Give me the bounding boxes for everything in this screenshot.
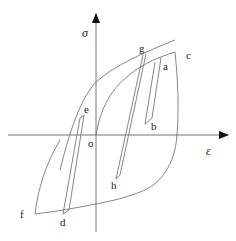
main-loop-right bbox=[35, 52, 178, 214]
loop-a-b-1 bbox=[145, 62, 155, 124]
point-g-label: g bbox=[139, 42, 145, 54]
point-e-label: e bbox=[84, 103, 89, 115]
loop-e-d-2 bbox=[63, 115, 84, 214]
origin-label: o bbox=[88, 137, 94, 149]
epsilon-label: ε bbox=[206, 144, 211, 158]
point-d-label: d bbox=[60, 216, 66, 228]
loop-a-b-2 bbox=[145, 58, 161, 124]
loop-e-d-1 bbox=[63, 118, 80, 214]
point-h-label: h bbox=[111, 179, 117, 191]
point-a-label: a bbox=[163, 60, 168, 72]
point-c-label: c bbox=[186, 49, 191, 61]
envelope-curve bbox=[60, 40, 175, 170]
point-f-label: f bbox=[20, 208, 24, 220]
main-loop-left bbox=[35, 140, 60, 214]
sigma-label: σ bbox=[82, 26, 89, 40]
loop-g-h-1 bbox=[116, 55, 143, 179]
hysteresis-diagram: σ ε o g c a b e h f d bbox=[0, 0, 236, 241]
point-b-label: b bbox=[151, 120, 157, 132]
